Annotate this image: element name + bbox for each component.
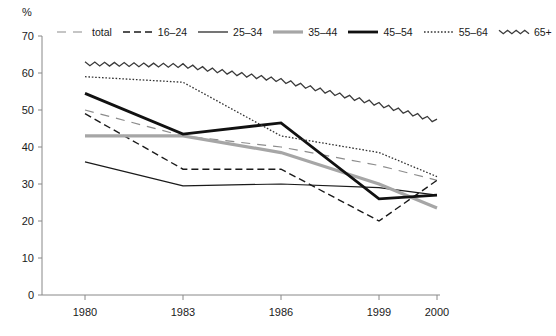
x-axis-tick-label: 1980	[73, 306, 97, 318]
y-axis-tick-label: 50	[22, 104, 34, 116]
x-axis-tick-label: 1986	[269, 306, 293, 318]
y-axis-tick-label: 70	[22, 30, 34, 42]
series-line	[85, 77, 437, 177]
y-axis-tick-label: 60	[22, 67, 34, 79]
legend-item-65+[interactable]: 65+	[498, 26, 552, 38]
y-axis-tick-label: 30	[22, 178, 34, 190]
x-axis-tick-label: 2000	[425, 306, 449, 318]
series-line	[85, 62, 437, 122]
y-axis-tick-label: 20	[22, 215, 34, 227]
y-axis-tick-label: 0	[28, 289, 34, 301]
series-line	[85, 93, 437, 198]
x-axis-tick-label: 1999	[367, 306, 391, 318]
legend-line-swatch-icon	[498, 27, 530, 37]
y-axis-tick-label: 10	[22, 252, 34, 264]
y-axis-tick-label: 40	[22, 141, 34, 153]
legend-label: 65+	[534, 26, 552, 38]
x-axis-tick-label: 1983	[171, 306, 195, 318]
